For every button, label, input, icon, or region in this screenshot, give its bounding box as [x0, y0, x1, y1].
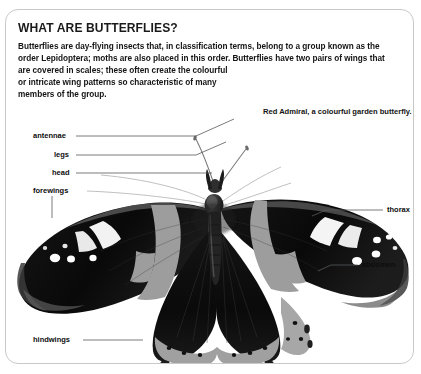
page-title: WHAT ARE BUTTERFLIES? — [18, 21, 178, 35]
antennae-tips — [193, 135, 250, 151]
figure-caption: Red Admiral, a colourful garden butterfl… — [263, 107, 412, 116]
butterfly-photograph — [5, 101, 414, 364]
body-line: are covered in scales; these often creat… — [18, 64, 394, 76]
callout-antennae: antennae — [33, 131, 66, 140]
body-line: order Lepidoptera; moths are also placed… — [18, 52, 394, 64]
callout-hindwings: hindwings — [33, 335, 70, 344]
callout-legs: legs — [54, 150, 69, 159]
body-line: or intricate wing patterns so characteri… — [18, 76, 394, 88]
body-line: members of the group. — [18, 88, 394, 100]
legs-icon — [87, 167, 291, 205]
callout-thorax: thorax — [387, 205, 410, 214]
hindwing-outer-scallops — [281, 297, 313, 355]
callout-forewings: forewings — [33, 186, 68, 195]
callout-head: head — [52, 168, 69, 177]
callout-abdomen: abdomen — [362, 260, 395, 269]
body-paragraph: Butterflies are day-flying insects that,… — [18, 40, 400, 100]
page-root: WHAT ARE BUTTERFLIES? Butterflies are da… — [0, 0, 421, 374]
body-line: Butterflies are day-flying insects that,… — [18, 40, 394, 52]
